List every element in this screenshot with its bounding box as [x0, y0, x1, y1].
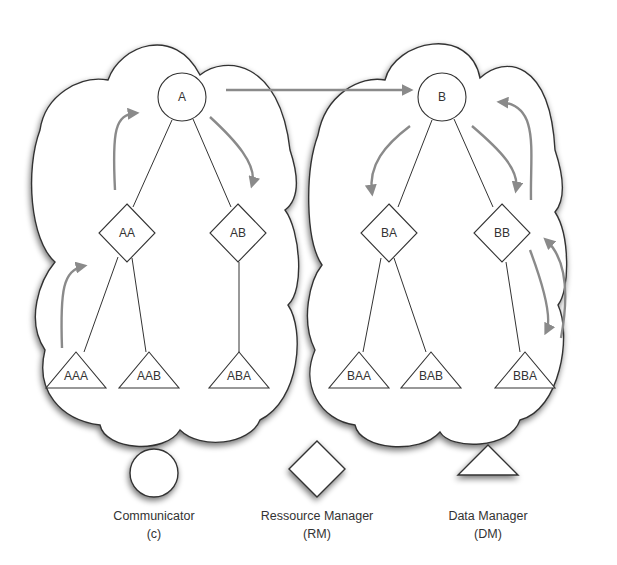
legend-abbr: (DM) — [393, 525, 583, 543]
legend-label: Data Manager — [393, 507, 583, 525]
node-label-aa: AA — [119, 226, 135, 240]
legend-abbr: (c) — [59, 525, 249, 543]
legend-abbr: (RM) — [222, 525, 412, 543]
node-label-a: A — [178, 90, 186, 104]
node-label-baa: BAA — [347, 369, 371, 383]
legend — [130, 441, 518, 497]
node-label-aab: AAB — [137, 369, 161, 383]
legend-diamond-icon — [289, 441, 345, 497]
legend-triangle-icon — [458, 445, 518, 475]
node-label-bb: BB — [494, 226, 510, 240]
node-label-aba: ABA — [227, 369, 251, 383]
node-label-ab: AB — [230, 226, 246, 240]
node-label-b: B — [438, 90, 446, 104]
node-label-bab: BAB — [419, 369, 443, 383]
legend-label: Communicator — [59, 507, 249, 525]
node-label-aaa: AAA — [64, 369, 88, 383]
legend-circle-icon — [130, 449, 178, 497]
legend-item-data-manager: Data Manager (DM) — [393, 507, 583, 543]
node-label-bba: BBA — [513, 369, 537, 383]
legend-item-communicator: Communicator (c) — [59, 507, 249, 543]
diagram-canvas: A B AA AB BA BB AAA AAB ABA BAA BAB BBA — [0, 0, 617, 565]
legend-item-resource-manager: Ressource Manager (RM) — [222, 507, 412, 543]
legend-label: Ressource Manager — [222, 507, 412, 525]
node-label-ba: BA — [381, 226, 397, 240]
